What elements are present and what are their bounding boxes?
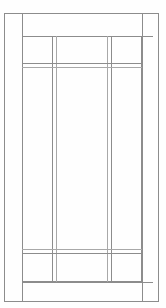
pane-top-center: [57, 37, 107, 63]
vertical-muntin-bar-3: [107, 36, 108, 282]
right-stile-inner-edge: [142, 13, 143, 302]
pane-bottom-center: [57, 254, 107, 282]
pane-bottom-right: [112, 254, 142, 282]
drawing-canvas: Nine-Lite Prairie Style Door Panel Line …: [0, 0, 166, 308]
pane-middle-left: [23, 68, 52, 249]
vertical-muntin-bar-1: [52, 36, 53, 282]
horizontal-muntin-bar-3: [22, 249, 142, 250]
pane-top-right: [112, 37, 142, 63]
pane-middle-right: [112, 68, 142, 249]
pane-top-left: [23, 37, 52, 63]
bottom-rail-top-edge: [22, 282, 153, 283]
horizontal-muntin-bar-1: [22, 63, 142, 64]
pane-bottom-left: [23, 254, 52, 282]
pane-middle-center: [57, 68, 107, 249]
